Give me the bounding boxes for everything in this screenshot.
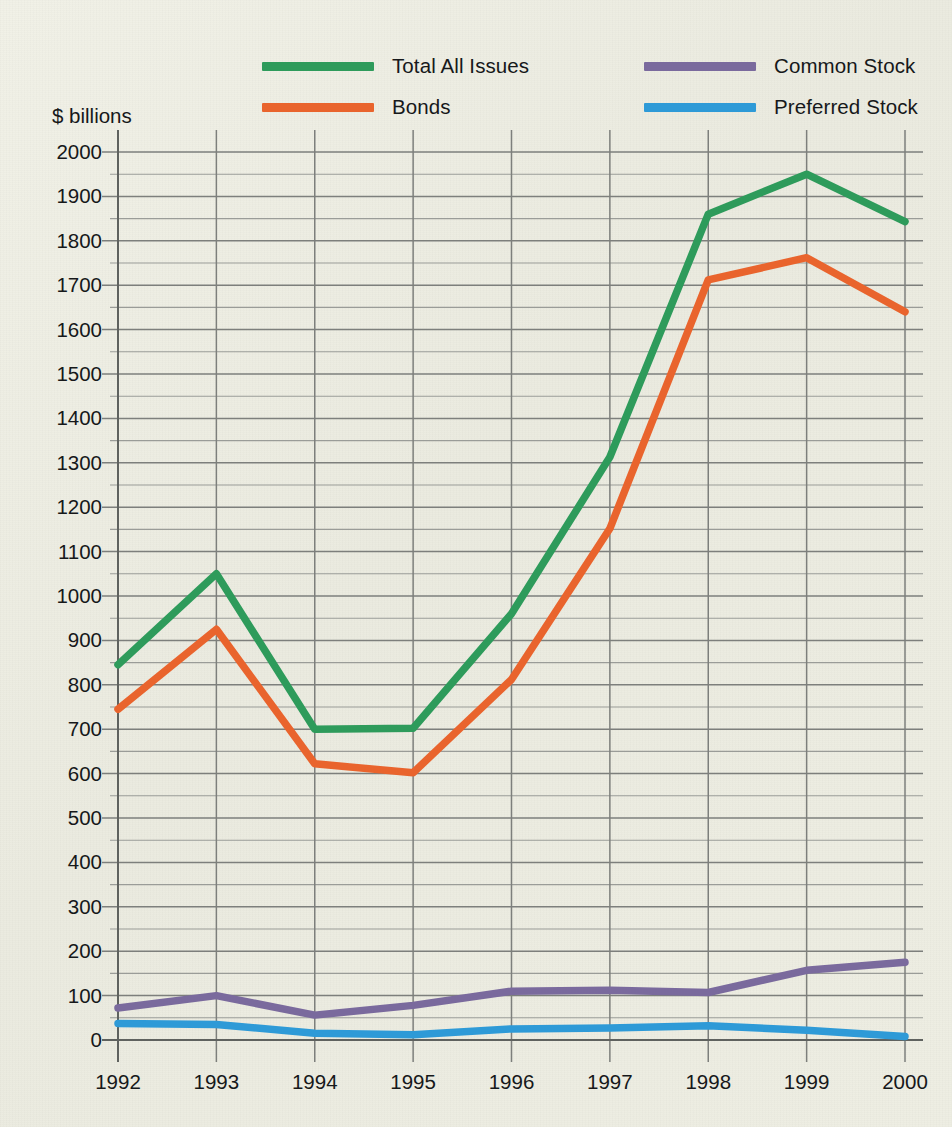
x-tick-label: 1994 <box>270 1070 360 1094</box>
y-tick-label: 1600 <box>0 318 102 342</box>
plot-area: 0100200300400500600700800900100011001200… <box>0 0 952 1127</box>
x-tick-label: 1993 <box>171 1070 261 1094</box>
x-tick-label: 1996 <box>467 1070 557 1094</box>
x-tick-label: 1998 <box>663 1070 753 1094</box>
y-tick-label: 1400 <box>0 406 102 430</box>
stock-issues-line-chart: Total All Issues Bonds Common Stock Pref… <box>0 0 952 1127</box>
y-tick-label: 600 <box>0 762 102 786</box>
y-tick-label: 700 <box>0 717 102 741</box>
x-tick-label: 1999 <box>762 1070 852 1094</box>
plot-svg <box>0 0 952 1127</box>
y-tick-label: 300 <box>0 895 102 919</box>
y-tick-label: 2000 <box>0 140 102 164</box>
x-tick-label: 2000 <box>860 1070 950 1094</box>
y-tick-label: 100 <box>0 984 102 1008</box>
x-tick-label: 1992 <box>73 1070 163 1094</box>
y-tick-label: 1800 <box>0 229 102 253</box>
y-tick-label: 400 <box>0 850 102 874</box>
y-tick-label: 1300 <box>0 451 102 475</box>
y-tick-label: 1700 <box>0 273 102 297</box>
y-tick-label: 1000 <box>0 584 102 608</box>
y-tick-label: 1900 <box>0 184 102 208</box>
y-tick-label: 200 <box>0 939 102 963</box>
x-tick-label: 1997 <box>565 1070 655 1094</box>
y-tick-label: 0 <box>0 1028 102 1052</box>
x-tick-label: 1995 <box>368 1070 458 1094</box>
y-tick-label: 1100 <box>0 540 102 564</box>
y-tick-label: 800 <box>0 673 102 697</box>
y-tick-label: 500 <box>0 806 102 830</box>
y-tick-label: 1200 <box>0 495 102 519</box>
y-tick-label: 1500 <box>0 362 102 386</box>
y-tick-label: 900 <box>0 628 102 652</box>
